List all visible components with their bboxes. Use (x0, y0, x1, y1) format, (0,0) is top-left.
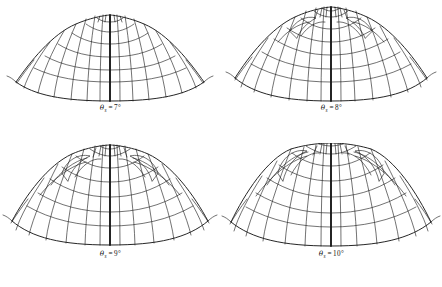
panel-caption: θs=9° (0, 250, 221, 259)
dome-panel: θs=10° (221, 143, 442, 286)
caption-symbol: θ (321, 103, 326, 112)
caption-symbol: θ (100, 103, 105, 112)
panel-caption: θs=7° (0, 104, 221, 113)
panel-caption: θs=10° (221, 250, 442, 259)
figure-canvas: θs=7° (0, 0, 442, 287)
panel-caption: θs=8° (221, 104, 442, 113)
dome-plot-3 (0, 143, 221, 255)
dome-plot-1 (0, 0, 221, 112)
dome-plot-4 (221, 143, 442, 255)
caption-value: 10° (333, 250, 344, 258)
dome-panel: θs=7° (0, 0, 221, 143)
dome-panel: θs=8° (221, 0, 442, 143)
caption-value: 7° (114, 104, 121, 112)
caption-symbol: θ (100, 249, 105, 258)
caption-symbol: θ (319, 249, 324, 258)
caption-value: 9° (114, 250, 121, 258)
dome-plot-2 (221, 0, 442, 112)
caption-value: 8° (335, 104, 342, 112)
dome-panel: θs=9° (0, 143, 221, 286)
